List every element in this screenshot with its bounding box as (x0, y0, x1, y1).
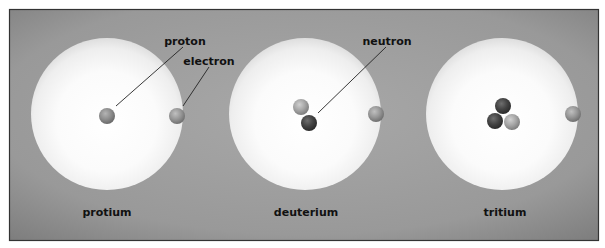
neutron-particle (301, 115, 317, 131)
electron-particle (565, 106, 581, 122)
proton-particle (293, 99, 309, 115)
isotope-name-tritium: tritium (484, 206, 527, 219)
isotope-diagram: proton electron neutron protium deuteriu… (0, 0, 605, 248)
isotope-name-deuterium: deuterium (274, 206, 338, 219)
neutron-label: neutron (362, 35, 411, 48)
proton-particle (99, 108, 115, 124)
electron-cloud (426, 38, 578, 190)
isotope-name-protium: protium (82, 206, 131, 219)
electron-cloud (229, 38, 381, 190)
electron-particle (169, 108, 185, 124)
proton-particle (504, 114, 520, 130)
neutron-particle (495, 98, 511, 114)
electron-label: electron (183, 55, 234, 68)
proton-label: proton (164, 35, 206, 48)
neutron-particle (487, 113, 503, 129)
electron-particle (368, 106, 384, 122)
